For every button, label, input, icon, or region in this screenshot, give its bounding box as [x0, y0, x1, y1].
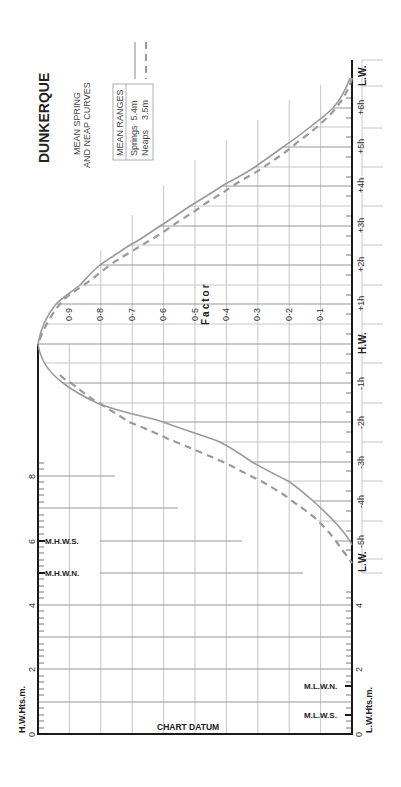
- svg-text:-2h: -2h: [356, 416, 366, 429]
- svg-text:0: 0: [27, 732, 37, 737]
- svg-text:4: 4: [354, 603, 364, 608]
- legend-neaps: Neaps 3.5m: [140, 100, 150, 156]
- svg-text:2: 2: [354, 667, 364, 672]
- svg-text:0·3: 0·3: [252, 308, 262, 321]
- svg-text:0·6: 0·6: [158, 308, 168, 321]
- svg-text:-4h: -4h: [356, 495, 366, 508]
- hw-axis-title: H.W.Hts.m.: [17, 686, 27, 733]
- mhwn-label: M.H.W.N.: [45, 569, 79, 578]
- mhws-label: M.H.W.S.: [45, 537, 79, 546]
- svg-text:2: 2: [27, 667, 37, 672]
- svg-text:+3h: +3h: [356, 218, 366, 233]
- svg-text:0·9: 0·9: [64, 308, 74, 321]
- svg-text:0·1: 0·1: [315, 308, 325, 321]
- svg-text:0·8: 0·8: [95, 308, 105, 321]
- svg-text:0·7: 0·7: [127, 308, 137, 321]
- mlwn-label: M.L.W.N.: [304, 682, 337, 691]
- factor-axis-label: Factor: [200, 282, 211, 325]
- svg-text:8: 8: [27, 474, 37, 479]
- svg-text:0·5: 0·5: [190, 308, 200, 321]
- tidal-curve-chart: 0·9 0·8 0·7 0·6 0·5 0·4 0·3 0·2 0·1 Fact…: [0, 0, 401, 787]
- svg-text:L.W.: L.W.: [357, 65, 368, 86]
- svg-text:+4h: +4h: [356, 178, 366, 193]
- chart-subtitle-2: AND NEAP CURVES: [82, 82, 92, 168]
- mlws-label: M.L.W.S.: [304, 711, 337, 720]
- legend-title: MEAN RANGES: [115, 89, 125, 156]
- svg-text:+5h: +5h: [356, 139, 366, 154]
- legend-springs: Springs 5.4m: [129, 100, 139, 156]
- hw-height-labels: 0 2 4 6 8 H.W.Hts.m.: [17, 474, 37, 737]
- svg-text:H.W.: H.W.: [357, 332, 368, 354]
- chart-title: DUNKERQUE: [36, 73, 52, 163]
- svg-text:+6h: +6h: [356, 100, 366, 115]
- svg-text:4: 4: [27, 603, 37, 608]
- svg-text:-1h: -1h: [356, 377, 366, 390]
- svg-text:6: 6: [27, 539, 37, 544]
- chart-subtitle-1: MEAN SPRING: [72, 92, 82, 155]
- lw-height-labels: 0 2 4 L.W.Hts.m.: [354, 603, 374, 737]
- svg-text:0·4: 0·4: [221, 308, 231, 321]
- svg-text:0·2: 0·2: [284, 308, 294, 321]
- chart-datum-label: CHART DATUM: [157, 722, 219, 732]
- svg-text:0: 0: [354, 732, 364, 737]
- legend: MEAN RANGES Springs 5.4m Neaps 3.5m: [113, 42, 153, 160]
- svg-text:-3h: -3h: [356, 456, 366, 469]
- svg-text:-5h: -5h: [356, 535, 366, 548]
- lw-axis-title: L.W.Hts.m.: [364, 687, 374, 733]
- svg-text:L.W.: L.W.: [357, 551, 368, 572]
- svg-text:+1h: +1h: [356, 296, 366, 311]
- factor-labels: 0·9 0·8 0·7 0·6 0·5 0·4 0·3 0·2 0·1: [64, 308, 325, 321]
- svg-text:+2h: +2h: [356, 257, 366, 272]
